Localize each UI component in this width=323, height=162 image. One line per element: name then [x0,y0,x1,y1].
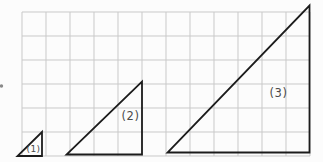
figure: (1)(2)(3) [0,0,323,162]
triangle-2-label: (2) [122,109,140,123]
triangle-grid-diagram: (1)(2)(3) [0,0,323,162]
figure-background [0,0,323,162]
triangle-1-label: (1) [26,144,40,154]
triangle-3-label: (3) [270,86,288,100]
